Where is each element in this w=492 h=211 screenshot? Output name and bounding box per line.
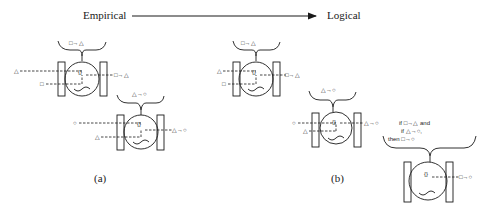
brain-icon: {} [137,121,141,127]
square-input: □ [222,81,226,87]
logic-line-2: if △→○, [401,128,422,134]
output-rule: □→△ [285,72,300,78]
brace-icon [117,95,164,110]
mouth-icon [133,140,149,144]
robot-a2: △→○ {} ○ △ △→○ [73,91,187,150]
mouth-icon [74,87,90,91]
brain-icon: {} [78,69,82,75]
output-rule: △→○ [364,120,379,126]
empirical-label: Empirical [83,9,126,21]
robot-head-icon [320,112,352,144]
rule-label: □→△ [241,40,256,46]
diagram-canvas: Empirical Logical □→△ {} △ □ □→△ △→○ {} … [0,0,492,211]
robot-ear-right [273,62,280,96]
robot-b3: if □→△ and if △→○, then □→○ {} □→○ [383,120,476,202]
robot-ear-right [354,113,361,147]
mouth-icon [419,191,435,195]
brace-icon [309,91,356,107]
robot-ear-right [100,62,107,96]
robot-ear-left [404,162,411,202]
triangle-input: △ [303,128,308,134]
robot-a1: □→△ {} △ □ □→△ [14,40,129,96]
robot-head-icon [409,162,447,200]
logical-label: Logical [327,9,361,21]
circle-input: ○ [292,120,296,126]
square-input: □ [40,81,44,87]
caption-a: (a) [94,172,107,185]
output-rule: □→△ [114,72,129,78]
triangle-input: △ [14,68,19,74]
robot-ear-left [58,62,65,96]
mouth-icon [248,87,264,91]
triangle-input: △ [95,134,100,140]
output-rule: △→○ [172,127,187,133]
logic-line-3: then □→○ [388,136,415,142]
mouth-icon [328,136,344,140]
circle-input: ○ [73,120,77,126]
robot-b1: □→△ {} △ □ □→△ [217,40,300,96]
rule-label: □→△ [69,40,84,46]
rule-label: △→○ [321,87,336,93]
brain-icon: {} [252,69,256,75]
empirical-logical-axis: Empirical Logical [83,9,361,21]
brain-icon: {} [424,171,428,177]
caption-b: (b) [331,172,344,185]
output-rule: □→○ [459,174,473,180]
logic-line-1: if □→△ and [399,120,430,126]
robot-ear-left [312,113,319,147]
triangle-input: △ [217,68,222,74]
rule-label: △→○ [132,91,147,97]
robot-ear-left [117,115,124,150]
robot-b2: △→○ {} ○ △ △→○ [292,87,379,147]
brain-icon: {} [332,119,336,125]
